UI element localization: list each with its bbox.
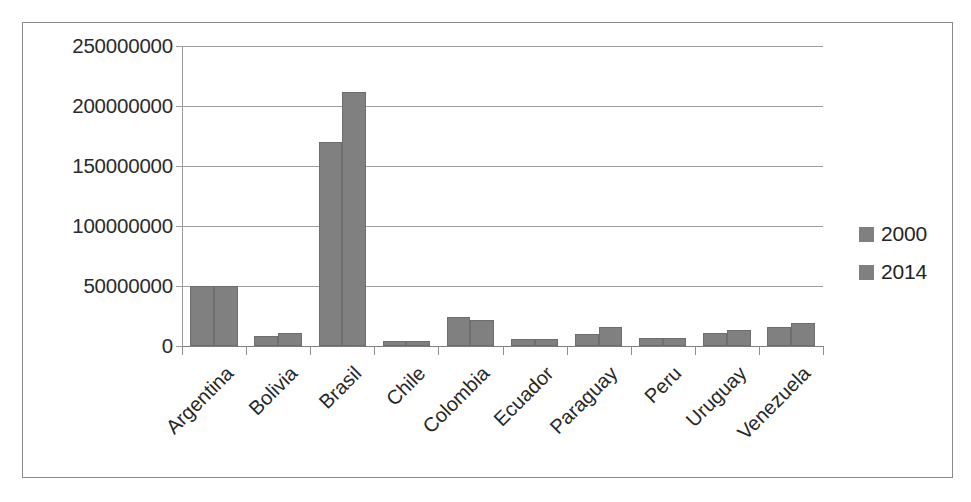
bar-group [310,46,374,346]
legend-label: 2014 [881,260,927,284]
x-tick-mark [567,346,568,355]
x-tick-mark [503,346,504,355]
x-axis-label: Bolivia [244,362,302,420]
x-tick-mark [182,346,183,355]
x-tick-mark [695,346,696,355]
legend-item[interactable]: 2014 [859,253,949,291]
chart-legend: 20002014 [859,215,949,291]
bars-layer [182,46,823,346]
chart-frame: 0500000001000000001500000002000000002500… [22,22,953,478]
x-tick-mark [374,346,375,355]
x-tick-mark [310,346,311,355]
bar-2000 [511,339,535,346]
bar-2014 [342,92,366,346]
bar-2000 [703,333,727,346]
legend-swatch-icon [859,227,874,242]
bar-2014 [791,323,815,346]
x-axis-label: Paraguay [546,362,623,439]
bar-2000 [767,327,791,346]
y-tick-label: 250000000 [72,34,173,58]
bar-2014 [599,327,623,346]
y-tick-label: 150000000 [72,154,173,178]
bar-2000 [447,317,471,346]
x-axis-label: Peru [641,362,687,408]
x-axis-label: Colombia [418,362,494,438]
bar-group [438,46,502,346]
bar-2000 [319,142,343,346]
bar-2000 [575,334,599,346]
bar-2014 [663,338,687,346]
bar-group [631,46,695,346]
bar-2000 [639,338,663,346]
y-tick-label: 200000000 [72,94,173,118]
legend-swatch-icon [859,265,874,280]
x-axis-label: Argentina [161,362,238,439]
x-tick-mark [438,346,439,355]
x-tick-mark [246,346,247,355]
y-tick-label: 50000000 [83,274,173,298]
bar-2014 [470,320,494,346]
bar-group [503,46,567,346]
bar-group [182,46,246,346]
plot-area: 0500000001000000001500000002000000002500… [182,46,823,346]
bar-2014 [214,286,238,346]
x-axis-label: Brasil [315,362,367,414]
bar-2000 [190,286,214,346]
x-tick-mark [823,346,824,355]
bar-group [759,46,823,346]
legend-label: 2000 [881,222,927,246]
bar-2014 [535,339,559,346]
x-tick-mark [631,346,632,355]
legend-item[interactable]: 2000 [859,215,949,253]
bar-2000 [254,336,278,346]
x-axis-label: Chile [382,362,430,410]
y-tick-label: 100000000 [72,214,173,238]
bar-2014 [727,330,751,346]
bar-group [695,46,759,346]
bar-group [567,46,631,346]
bar-2014 [278,333,302,346]
bar-group [374,46,438,346]
x-tick-mark [759,346,760,355]
bar-group [246,46,310,346]
y-tick-label: 0 [162,334,173,358]
